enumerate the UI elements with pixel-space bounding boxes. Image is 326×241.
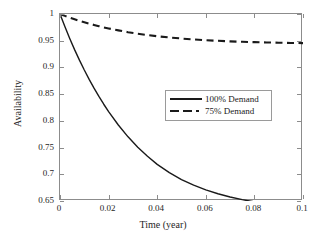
y-tick-label: 0.95: [0, 35, 54, 44]
x-axis-title: Time (year): [0, 219, 326, 230]
x-tick-label: 0.1: [296, 204, 307, 213]
y-tick-mark: [60, 14, 64, 15]
y-tick-label: 0.85: [0, 89, 54, 98]
y-tick-mark: [60, 174, 64, 175]
legend-label: 100% Demand: [205, 94, 259, 104]
series-line-75-demand: [60, 14, 303, 43]
y-tick-mark-right: [297, 94, 301, 95]
x-tick-mark-top: [109, 14, 110, 18]
y-tick-label: 1: [0, 9, 54, 18]
legend-sample-dashed-icon: [170, 106, 202, 116]
x-tick-label: 0.08: [246, 204, 262, 213]
y-tick-mark: [60, 67, 64, 68]
x-tick-mark-top: [206, 14, 207, 18]
legend-label: 75% Demand: [205, 106, 254, 116]
x-tick-mark: [109, 195, 110, 199]
chart-legend: 100% Demand 75% Demand: [165, 90, 272, 121]
legend-sample-solid-icon: [170, 94, 202, 104]
y-tick-label: 0.7: [0, 169, 54, 178]
y-tick-mark: [60, 41, 64, 42]
x-tick-label: 0.04: [148, 204, 164, 213]
x-tick-mark-top: [254, 14, 255, 18]
y-tick-mark: [60, 201, 64, 202]
y-tick-mark-right: [297, 174, 301, 175]
x-tick-label: 0.06: [197, 204, 213, 213]
y-tick-mark-right: [297, 148, 301, 149]
chart-figure: Availability 00.020.040.060.080.1 0.650.…: [0, 0, 326, 241]
y-tick-label: 0.8: [0, 115, 54, 124]
x-tick-mark: [157, 195, 158, 199]
y-tick-mark: [60, 148, 64, 149]
x-tick-mark-top: [157, 14, 158, 18]
x-tick-mark: [303, 195, 304, 199]
y-tick-mark-right: [297, 14, 301, 15]
legend-item-100-demand: 100% Demand: [170, 93, 267, 105]
x-tick-label: 0.02: [100, 204, 116, 213]
legend-item-75-demand: 75% Demand: [170, 105, 267, 117]
y-tick-label: 0.75: [0, 142, 54, 151]
x-tick-label: 0: [57, 204, 62, 213]
y-tick-mark-right: [297, 41, 301, 42]
y-tick-mark-right: [297, 201, 301, 202]
x-tick-mark: [60, 195, 61, 199]
y-tick-mark: [60, 94, 64, 95]
x-tick-mark: [254, 195, 255, 199]
x-tick-mark: [206, 195, 207, 199]
y-tick-mark: [60, 121, 64, 122]
y-tick-label: 0.65: [0, 196, 54, 205]
y-tick-mark-right: [297, 67, 301, 68]
x-tick-mark-top: [303, 14, 304, 18]
y-tick-label: 0.9: [0, 62, 54, 71]
y-tick-mark-right: [297, 121, 301, 122]
